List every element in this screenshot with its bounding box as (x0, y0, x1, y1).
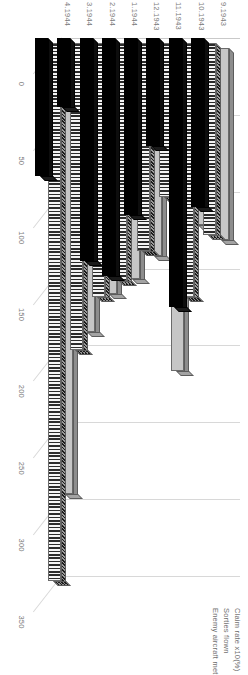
bar-end-cap (176, 371, 194, 376)
bar-top-face (216, 43, 221, 240)
bar-top-face (229, 48, 234, 245)
bar-11.1943-enemy-aircraft-met (147, 38, 160, 146)
category-tick-4.1944: 4.1944 (63, 2, 72, 26)
bar-top-face (48, 38, 53, 181)
bar-front-face (58, 38, 71, 107)
bar-top-face (182, 38, 187, 312)
bar-series-layer (62, 38, 240, 606)
bar-front-face (147, 38, 160, 146)
legend-label-sorties-flown: Sorties flown (222, 608, 231, 654)
bar-front-face (124, 38, 137, 215)
category-tick-3.1944: 3.1944 (85, 2, 94, 26)
category-tick-10.1943: 10.1943 (196, 2, 205, 31)
bar-top-face (115, 38, 120, 281)
value-tick-50: 50 (17, 156, 26, 165)
bar-top-face (93, 38, 98, 266)
bar-3.1944-enemy-aircraft-met (58, 38, 71, 107)
category-tick-11.1943: 11.1943 (174, 2, 183, 30)
bar-end-cap (87, 332, 105, 337)
bar-9.1943-enemy-aircraft-met (191, 38, 204, 207)
bar-top-face (160, 38, 165, 151)
value-tick-0: 0 (17, 82, 26, 86)
category-tick-12.1943: 12.1943 (152, 2, 161, 31)
bar-top-face (204, 38, 209, 212)
category-tick-2.1944: 2.1944 (107, 2, 116, 26)
value-tick-250: 250 (17, 462, 26, 475)
bar-1.1944-enemy-aircraft-met (102, 38, 115, 276)
bar-end-cap (53, 581, 71, 586)
bar-12.1943-enemy-aircraft-met (124, 38, 137, 215)
value-tick-200: 200 (17, 385, 26, 398)
bar-front-face (35, 38, 48, 176)
bar-top-face (61, 43, 66, 586)
legend-label-enemy-aircraft-met: Enemy aircraft met (211, 608, 220, 675)
bar-front-face (191, 38, 204, 207)
bar-top-face (137, 38, 142, 220)
bar-end-cap (221, 240, 239, 245)
value-tick-150: 150 (17, 308, 26, 321)
bar-front-face (102, 38, 115, 276)
value-tick-350: 350 (17, 615, 26, 628)
bar-2.1944-enemy-aircraft-met (80, 38, 93, 261)
category-tick-9.1943: 9.1943 (218, 2, 227, 26)
bar-10.1943-enemy-aircraft-met (169, 38, 182, 307)
legend-label-claim-rate-x10-: Claim rate x10(%) (233, 608, 242, 671)
bar-end-cap (65, 494, 83, 499)
bar-front-face (169, 38, 182, 307)
bar-front-face (80, 38, 93, 261)
value-tick-300: 300 (17, 539, 26, 552)
category-tick-1.1944: 1.1944 (129, 2, 138, 26)
bar-top-face (71, 38, 76, 112)
bar-4.1944-enemy-aircraft-met (35, 38, 48, 176)
value-tick-100: 100 (17, 231, 26, 244)
